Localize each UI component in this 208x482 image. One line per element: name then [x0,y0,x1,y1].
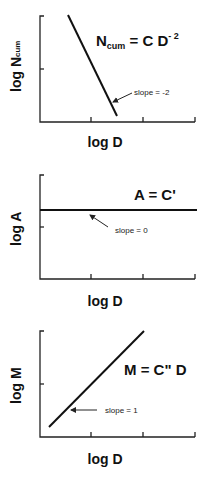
slope-annotation: slope = 0 [115,226,148,235]
slope-annotation: slope = -2 [134,88,170,97]
x-axis-label: log D [88,451,123,467]
panel-a: slope = 0 A = C' log A log D [8,175,197,309]
annotation-arrow [113,93,132,102]
annotation-arrow [90,215,108,227]
y-axis-label: log Ncum [8,41,24,92]
equation: M = C" D [124,361,187,378]
panel-ncum: slope = -2 Ncum = C D- 2 log Ncum log D [8,15,195,150]
slope-annotation: slope = 1 [105,406,138,415]
x-axis-label: log D [88,134,123,150]
data-line [68,15,117,116]
y-axis-label: log M [8,367,24,404]
y-axis [40,331,195,437]
y-axis-label: log A [8,212,24,246]
figure: slope = -2 Ncum = C D- 2 log Ncum log D … [0,0,208,482]
panel-m: slope = 1 M = C" D log M log D [8,331,195,467]
equation: A = C' [134,186,176,203]
equation: Ncum = C D- 2 [96,31,179,51]
x-axis-label: log D [88,293,123,309]
